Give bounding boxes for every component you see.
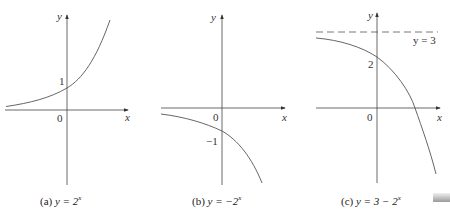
panel-a-tick-label: 1	[59, 75, 65, 87]
panel-a-y-label: y	[56, 10, 62, 22]
panel-b-curve	[161, 114, 262, 183]
panel-c-y-label: y	[367, 9, 373, 21]
panel-c-caption-prefix: (c)	[341, 195, 356, 207]
panel-a-caption-prefix: (a)	[40, 195, 55, 207]
panel-b-y-label: y	[210, 11, 216, 23]
page-edge-marker	[433, 193, 450, 202]
panel-b-caption-prefix: (b)	[192, 195, 208, 207]
panel-c-caption-fn: y = 3 − 2	[356, 195, 398, 207]
panel-c-tick-label: 2	[368, 58, 374, 70]
panel-b-graph: y x 0 −1	[161, 11, 287, 185]
panel-a-x-label: x	[124, 111, 130, 123]
panel-c-caption-exp: x	[398, 194, 401, 202]
panel-a-origin-label: 0	[57, 112, 63, 124]
panel-a-caption: (a) y = 2x	[40, 194, 81, 207]
panel-b-caption: (b) y = −2x	[192, 194, 241, 207]
panel-a-caption-fn: y = 2	[55, 195, 78, 207]
panel-b-caption-fn: y = −2	[208, 195, 239, 207]
panel-a-caption-exp: x	[78, 194, 81, 202]
panel-c-origin-label: 0	[367, 111, 373, 123]
panel-c-x-label: x	[436, 111, 442, 123]
panel-a-curve	[6, 20, 110, 107]
panel-b-caption-exp: x	[238, 194, 241, 202]
panel-b-origin-label: 0	[213, 111, 219, 123]
panel-b-tick-label: −1	[206, 135, 218, 147]
panel-a-graph: y x 0 1	[5, 10, 130, 185]
panel-c-asymptote-label: y = 3	[413, 34, 436, 46]
panel-c-caption: (c) y = 3 − 2x	[341, 194, 401, 207]
panel-c-curve	[316, 38, 436, 174]
panel-b-x-label: x	[281, 111, 287, 123]
figure-canvas: y x 0 1 y x 0 −1 y x 0 2 y = 3	[0, 0, 450, 211]
panel-c-graph: y x 0 2 y = 3	[316, 9, 442, 183]
